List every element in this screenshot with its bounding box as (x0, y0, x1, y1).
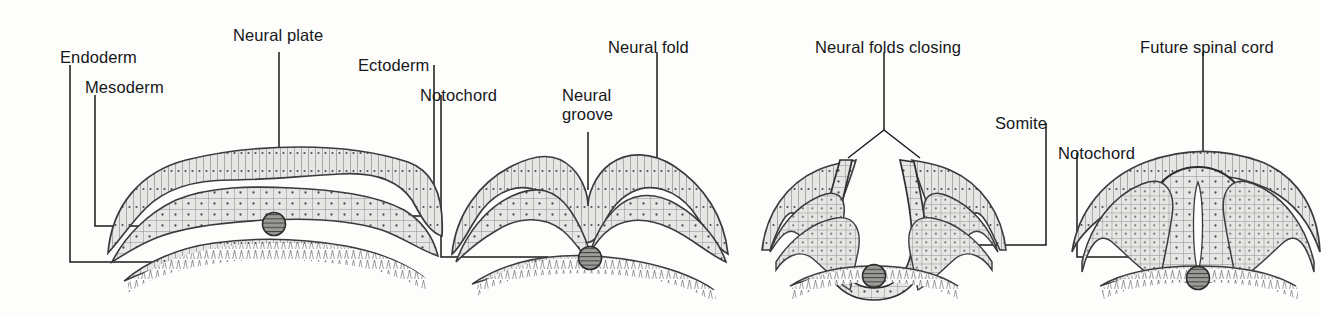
stage-1-cross-section (108, 147, 442, 293)
label-neural-groove: Neural groove (562, 86, 613, 125)
stage-4-notochord (1187, 267, 1210, 290)
label-notochord-stage-2: Notochord (420, 86, 497, 105)
label-notochord-stage-4: Notochord (1058, 144, 1135, 163)
stage-3-notochord (863, 265, 886, 288)
stage-4-cross-section (1072, 152, 1320, 301)
neurulation-diagram: Endoderm Mesoderm Neural plate Ectoderm … (0, 0, 1321, 316)
label-ectoderm: Ectoderm (358, 56, 429, 75)
leader-neural-folds-closing-fork (848, 130, 920, 158)
label-endoderm: Endoderm (60, 48, 137, 67)
stage-2-cross-section (452, 155, 728, 304)
stage-1-endoderm-cilia (128, 243, 428, 293)
stage-3-cross-section (762, 160, 1006, 300)
stage-2-notochord (579, 247, 602, 270)
stage-2-neural-plate-folds (452, 155, 728, 254)
label-mesoderm: Mesoderm (85, 78, 164, 97)
label-future-spinal-cord: Future spinal cord (1140, 38, 1274, 57)
stage-4-neural-canal-lumen (1194, 182, 1203, 272)
label-neural-plate: Neural plate (233, 26, 323, 45)
label-neural-fold: Neural fold (608, 38, 689, 57)
stage-1-notochord (263, 213, 286, 236)
label-somite: Somite (995, 114, 1047, 133)
stage-4-somite-left (1082, 181, 1173, 282)
label-neural-folds-closing: Neural folds closing (815, 38, 961, 57)
